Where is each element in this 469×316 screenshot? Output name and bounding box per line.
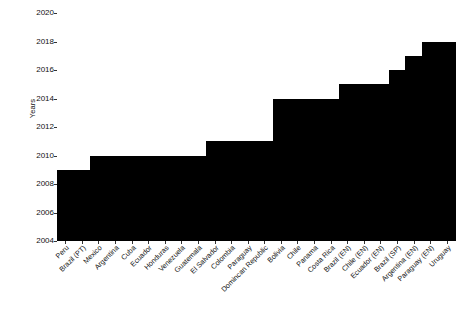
bar [405, 56, 422, 241]
bar [74, 170, 91, 241]
x-axis-tick-labels: PeruBrazil (PT)MexicoArgentinaCubaEcuado… [57, 244, 455, 316]
bar [223, 141, 240, 241]
bar [372, 84, 389, 241]
bar [239, 141, 256, 241]
bar [206, 141, 223, 241]
bar [422, 42, 439, 242]
bar [157, 156, 174, 242]
bar [339, 84, 356, 241]
bar [322, 99, 339, 242]
y-axis-tick-label: 2006 [24, 209, 54, 217]
bar [90, 156, 107, 242]
bar [356, 84, 373, 241]
bar [173, 156, 190, 242]
bar [289, 99, 306, 242]
y-axis-tick-label: 2010 [24, 152, 54, 160]
y-axis-tick-labels: 200420062008201020122014201620182020 [20, 13, 54, 241]
bar [57, 170, 74, 241]
y-axis-tick-label: 2020 [24, 9, 54, 17]
y-axis-tick-label: 2014 [24, 95, 54, 103]
bar [438, 42, 455, 242]
bar [107, 156, 124, 242]
y-axis-tick-label: 2012 [24, 123, 54, 131]
bar [389, 70, 406, 241]
chart-figure: Years 2004200620082010201220142016201820… [0, 0, 469, 316]
plot-area [57, 13, 455, 241]
y-axis-tick-label: 2018 [24, 38, 54, 46]
bar [256, 141, 273, 241]
y-axis-tick-label: 2004 [24, 237, 54, 245]
y-axis-tick-label: 2016 [24, 66, 54, 74]
bar [273, 99, 290, 242]
bar [190, 156, 207, 242]
bar [306, 99, 323, 242]
bar [123, 156, 140, 242]
bar [140, 156, 157, 242]
y-axis-tick-label: 2008 [24, 180, 54, 188]
